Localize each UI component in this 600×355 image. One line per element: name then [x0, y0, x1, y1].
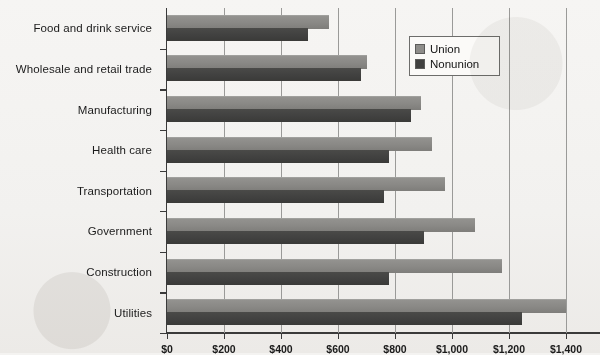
bar-nonunion: [167, 272, 389, 285]
category-label: Transportation: [77, 185, 152, 197]
x-axis-tick-label: $1,400: [550, 343, 582, 355]
x-axis-tick: [452, 333, 453, 339]
x-axis-tick: [167, 333, 168, 339]
gridline: [509, 8, 510, 333]
x-axis-tick-label: $600: [326, 343, 349, 355]
legend-item-union: Union: [415, 41, 494, 56]
gridline: [566, 8, 567, 333]
bar-union: [167, 177, 445, 191]
x-axis-tick-label: $400: [269, 343, 292, 355]
x-axis-tick: [395, 333, 396, 339]
y-axis-tick: [160, 130, 167, 131]
legend-swatch-union-icon: [415, 44, 425, 54]
category-label: Wholesale and retail trade: [16, 63, 152, 75]
bar-nonunion: [167, 190, 384, 203]
plot-area: $0$200$400$600$800$1,000$1,200$1,400: [167, 8, 566, 333]
legend: Union Nonunion: [409, 36, 500, 76]
bar-union: [167, 259, 502, 273]
bar-union: [167, 96, 421, 110]
legend-swatch-nonunion-icon: [415, 59, 425, 69]
category-label: Government: [88, 225, 152, 237]
x-axis-tick-label: $1,200: [493, 343, 525, 355]
x-axis-tick: [224, 333, 225, 339]
y-axis-tick: [160, 292, 167, 293]
category-label: Manufacturing: [78, 104, 152, 116]
x-axis-tick: [338, 333, 339, 339]
legend-label-nonunion: Nonunion: [430, 58, 479, 70]
x-axis-tick: [566, 333, 567, 339]
bar-union: [167, 299, 566, 313]
category-label: Health care: [92, 144, 152, 156]
x-axis-tick: [281, 333, 282, 339]
bar-nonunion: [167, 28, 308, 41]
bar-nonunion: [167, 231, 424, 244]
category-axis-labels: Food and drink serviceWholesale and reta…: [0, 0, 161, 333]
legend-item-nonunion: Nonunion: [415, 56, 494, 71]
y-axis-tick: [160, 211, 167, 212]
bar-nonunion: [167, 68, 361, 81]
x-axis-tick-label: $200: [212, 343, 235, 355]
y-axis-tick: [160, 89, 167, 90]
gridline: [395, 8, 396, 333]
x-axis-line: [166, 332, 600, 333]
bar-nonunion: [167, 150, 389, 163]
y-axis-tick: [160, 171, 167, 172]
x-axis-tick-label: $800: [383, 343, 406, 355]
legend-label-union: Union: [430, 43, 460, 55]
bar-union: [167, 137, 432, 151]
category-label: Construction: [86, 266, 152, 278]
bar-union: [167, 55, 367, 69]
bar-union: [167, 218, 475, 232]
x-axis-tick-label: $1,000: [436, 343, 468, 355]
category-label: Food and drink service: [33, 22, 152, 34]
y-axis-tick: [160, 333, 167, 334]
x-axis-tick: [509, 333, 510, 339]
y-axis-tick: [160, 252, 167, 253]
y-axis-tick: [160, 49, 167, 50]
bar-nonunion: [167, 109, 411, 122]
bar-nonunion: [167, 312, 522, 325]
x-axis-tick-label: $0: [161, 343, 173, 355]
category-label: Utilities: [114, 307, 152, 319]
bar-union: [167, 15, 329, 29]
